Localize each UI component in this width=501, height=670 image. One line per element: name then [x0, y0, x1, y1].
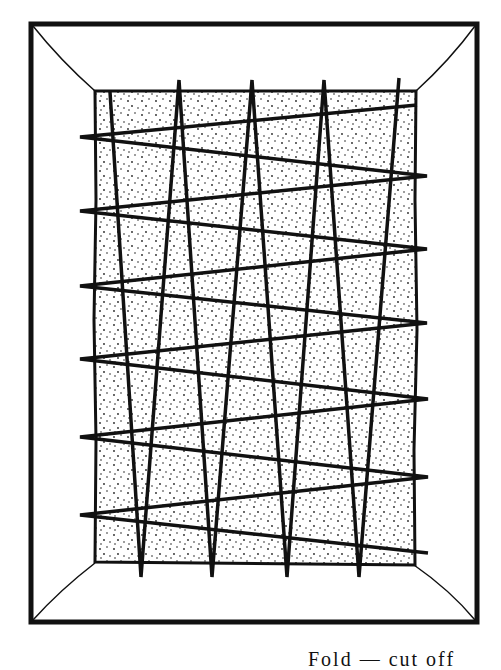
figure-caption-partial: Fold — cut off	[308, 648, 455, 670]
